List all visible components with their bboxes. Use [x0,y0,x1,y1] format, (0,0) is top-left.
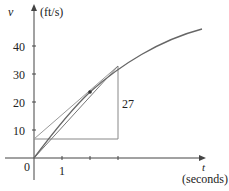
tangent-point [88,90,92,94]
plot-canvas [0,0,229,191]
y-tick-label-20: 20 [13,97,25,109]
y-units-label: (ft/s) [40,6,63,18]
y-tick-label-30: 30 [13,69,25,81]
y-tick-label-10: 10 [13,125,25,137]
diagram: v (ft/s) 40 30 20 10 0 1 27 t (seconds) [0,0,229,191]
x-units-label: (seconds) [182,173,228,185]
tangent-line [34,66,118,139]
origin-label: 0 [24,161,30,173]
y-var-label: v [8,6,13,18]
y-tick-label-40: 40 [13,41,25,53]
rise-label: 27 [122,98,134,110]
y-axis-arrow-icon [31,4,37,11]
x-tick-label-1: 1 [59,165,65,177]
